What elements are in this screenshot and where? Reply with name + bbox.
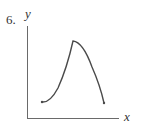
right-endpoint-dot [103,102,105,104]
left-endpoint-dot [41,101,43,103]
graph-figure: 6. y x [0,0,142,128]
function-curve [42,41,104,103]
plot-area [0,0,142,128]
